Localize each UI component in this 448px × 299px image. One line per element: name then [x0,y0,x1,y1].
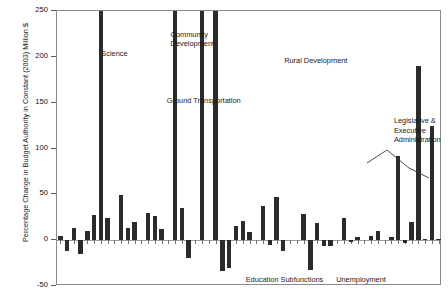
y-axis-tick-label: -50 [20,281,48,289]
chart-annotation: Rural Development [284,56,347,66]
x-axis-tick-mark [162,240,163,244]
x-axis-tick-mark [182,240,183,244]
x-axis-tick-mark [236,240,237,244]
y-axis-tick-label: 50 [20,189,48,197]
chart-annotation: Education Subfunctions [246,275,324,285]
x-axis-tick-mark [364,240,365,244]
x-axis-tick-mark [304,240,305,244]
bar [241,221,245,240]
x-axis-tick-mark [250,240,251,244]
bar [146,213,150,241]
x-axis-tick-mark [148,240,149,244]
plot-area: ScienceCommunity DevelopmentGround Trans… [56,10,441,285]
x-axis-tick-mark [256,240,257,244]
x-axis-tick-mark [317,240,318,244]
x-axis-tick-mark [398,240,399,244]
bar [322,240,326,246]
x-axis-tick-mark [121,240,122,244]
x-axis-tick-group [57,240,440,244]
bar [78,240,82,254]
x-axis-tick-mark [277,240,278,244]
bar [153,216,157,240]
bar [369,236,373,241]
x-axis-tick-mark [425,240,426,244]
bar [328,240,332,246]
bar [261,206,265,240]
x-axis-tick-mark [202,240,203,244]
bar [416,66,420,240]
bar [186,240,190,258]
y-axis-tick-label: 150 [20,98,48,106]
x-axis-tick-mark [114,240,115,244]
bar [105,218,109,240]
x-axis-tick-mark [216,240,217,244]
x-axis-tick-mark [155,240,156,244]
y-axis-tick-mark [51,285,56,286]
bar [132,222,136,240]
bar [92,215,96,240]
x-axis-tick-mark [175,240,176,244]
bar [315,223,319,240]
chart-annotation: Legislative & Executive Administration [394,116,441,145]
x-axis-tick-mark [60,240,61,244]
x-axis-tick-mark [195,240,196,244]
x-axis-tick-mark [439,240,440,244]
bar [180,208,184,240]
x-axis-tick-mark [371,240,372,244]
bar [72,228,76,240]
x-axis-tick-mark [418,240,419,244]
bar [99,11,103,240]
bar [65,240,69,251]
x-axis-tick-mark [94,240,95,244]
bar [301,214,305,241]
bar [281,240,285,251]
x-axis-tick-mark [128,240,129,244]
bar [403,240,407,243]
bar [58,236,62,241]
bar [234,226,238,241]
bar [119,195,123,240]
x-axis-tick-mark [101,240,102,244]
x-axis-tick-mark [432,240,433,244]
bar [355,237,359,240]
x-axis-tick-mark [263,240,264,244]
bar [396,156,400,240]
x-axis-tick-mark [385,240,386,244]
x-axis-tick-mark [297,240,298,244]
bar [247,232,251,240]
chart-annotation: Science [101,49,127,59]
x-axis-tick-mark [290,240,291,244]
x-axis-tick-mark [337,240,338,244]
bar [85,231,89,240]
y-axis-tick-label: 200 [20,52,48,60]
chart-annotation: Community Development [171,30,215,49]
bar [349,240,353,242]
x-axis-tick-mark [243,240,244,244]
bar [423,239,427,240]
bar [376,231,380,240]
x-axis-tick-mark [135,240,136,244]
x-axis-tick-mark [209,240,210,244]
bar [213,11,217,240]
chart-page: Percentage Change in Budget Authority in… [0,0,448,299]
x-axis-tick-mark [87,240,88,244]
x-axis-tick-mark [412,240,413,244]
bar [220,240,224,271]
chart-annotation: Unemployment [336,275,386,285]
x-axis-tick-mark [108,240,109,244]
bar [126,228,130,240]
bar [436,239,440,240]
y-axis-tick-label: 0 [20,235,48,243]
bar [268,240,272,245]
bar [227,240,231,268]
bar [389,237,393,241]
x-axis-tick-mark [378,240,379,244]
bar [342,218,346,240]
x-axis-tick-mark [168,240,169,244]
y-axis-tick-label: 250 [20,6,48,14]
chart-annotation: Ground Transportation [167,96,241,106]
x-axis-tick-mark [141,240,142,244]
x-axis-tick-mark [391,240,392,244]
y-axis-tick-label: 100 [20,144,48,152]
bar [409,222,413,240]
